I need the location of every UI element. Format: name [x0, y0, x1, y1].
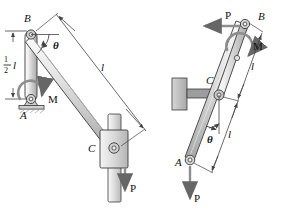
left-ext-line-top	[36, 13, 58, 31]
left-half-denominator: 2	[4, 66, 8, 75]
left-label-theta: θ	[53, 39, 59, 51]
right-pin-mid	[234, 55, 239, 60]
left-label-a: A	[19, 109, 27, 121]
left-label-half-length: 1 2 l	[4, 55, 17, 75]
mechanism-diagram-svg: B A C M P θ l 1 2 l	[0, 0, 288, 217]
right-label-m: M	[253, 40, 263, 52]
left-label-length-l: l	[101, 61, 104, 73]
right-wall	[172, 78, 187, 110]
right-label-a: A	[174, 156, 182, 168]
right-mechanism: B A C M P P θ l l	[172, 9, 265, 204]
right-label-p-bottom: P	[194, 192, 200, 204]
right-label-p-top: P	[225, 9, 231, 21]
right-pin-a	[185, 155, 195, 165]
left-half-symbol: l	[13, 59, 16, 71]
right-pin-b	[240, 19, 249, 28]
right-label-c: C	[206, 74, 214, 86]
left-label-m: M	[48, 93, 58, 105]
left-half-numerator: 1	[4, 55, 8, 64]
right-label-theta: θ	[207, 133, 213, 145]
right-label-b: B	[258, 10, 265, 22]
right-label-length-upper: l	[251, 60, 254, 72]
left-label-p: P	[130, 182, 136, 194]
figure-canvas: B A C M P θ l 1 2 l	[0, 0, 288, 217]
right-label-length-lower: l	[228, 128, 231, 140]
left-label-b: B	[24, 12, 31, 24]
left-mechanism: B A C M P θ l 1 2 l	[4, 12, 147, 202]
left-label-c: C	[88, 142, 96, 154]
